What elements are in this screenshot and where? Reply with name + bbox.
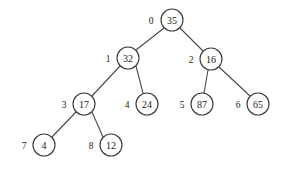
node-value-0: 35 [167,15,177,26]
node-index-8: 8 [89,141,94,151]
tree-nodes: 35032116217324487565647128 [22,9,269,156]
tree-node-4[interactable]: 244 [125,93,158,115]
node-value-6: 65 [253,99,263,110]
tree-edge-3-8 [92,112,103,137]
node-value-1: 32 [123,53,133,64]
tree-node-1[interactable]: 321 [106,47,139,69]
node-value-2: 16 [206,54,216,65]
tree-node-8[interactable]: 128 [89,134,122,156]
tree-edges [52,28,250,137]
node-index-4: 4 [125,100,130,110]
node-index-3: 3 [62,100,67,110]
tree-node-7[interactable]: 47 [22,134,55,156]
node-index-2: 2 [189,55,194,65]
node-value-4: 24 [142,99,152,110]
tree-edge-3-7 [52,112,76,137]
tree-node-6[interactable]: 656 [236,93,269,115]
tree-edge-2-5 [204,70,208,93]
node-index-0: 0 [149,16,154,26]
tree-canvas: 35032116217324487565647128 [0,0,282,170]
tree-node-2[interactable]: 162 [189,48,222,70]
node-value-5: 87 [197,99,207,110]
node-value-8: 12 [106,140,116,151]
binary-tree-figure: 35032116217324487565647128 [0,0,282,170]
node-index-1: 1 [106,54,111,64]
node-index-6: 6 [236,100,241,110]
tree-edge-1-4 [136,66,143,93]
tree-edge-0-1 [136,28,164,50]
node-value-7: 4 [42,140,47,151]
node-index-7: 7 [22,141,27,151]
node-value-3: 17 [79,99,89,110]
tree-node-3[interactable]: 173 [62,93,95,115]
tree-edge-1-3 [92,66,120,96]
tree-edge-2-6 [219,67,250,96]
tree-node-5[interactable]: 875 [180,93,213,115]
tree-node-0[interactable]: 350 [149,9,183,31]
node-index-5: 5 [180,100,185,110]
tree-edge-0-2 [180,28,203,51]
